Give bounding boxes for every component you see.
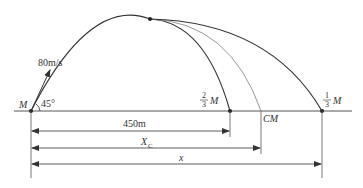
launch-label: M — [18, 99, 28, 110]
angle-arc — [36, 104, 40, 111]
angle-label: 45° — [41, 98, 55, 109]
projectile-diagram: M 45° 80m/s 2 3 M CM 1 3 M 450m X C x — [0, 0, 363, 188]
dimension-450m-label: 450m — [123, 118, 146, 129]
dimension-x-label: x — [178, 152, 184, 163]
svg-text:1: 1 — [325, 91, 329, 100]
apex-point — [148, 17, 152, 21]
svg-text:3: 3 — [325, 100, 329, 109]
one-third-fragment-trajectory — [150, 19, 322, 111]
cm-label: CM — [263, 113, 279, 124]
svg-text:X: X — [140, 136, 148, 147]
two-thirds-label: 2 3 M — [200, 91, 219, 109]
svg-text:C: C — [148, 142, 153, 150]
svg-text:M: M — [209, 95, 219, 106]
one-third-label: 1 3 M — [323, 91, 342, 109]
velocity-label: 80m/s — [38, 57, 63, 68]
svg-text:M: M — [332, 95, 342, 106]
svg-text:2: 2 — [202, 91, 206, 100]
svg-text:3: 3 — [202, 100, 206, 109]
